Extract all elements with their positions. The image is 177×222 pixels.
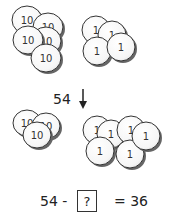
top-tens-group: 10 10 10 10 10 — [12, 6, 65, 74]
transition-label: 54 — [53, 91, 71, 107]
unknown-placeholder: ? — [84, 194, 91, 209]
equation-right: = 36 — [114, 193, 148, 209]
svg-text:10: 10 — [40, 53, 53, 64]
down-arrow-icon — [79, 89, 87, 109]
coin-diagram: 10 10 10 10 10 1 1 1 1 10 10 10 1 1 1 1 … — [0, 0, 177, 222]
equation-left: 54 - — [40, 193, 67, 209]
svg-text:1: 1 — [94, 46, 100, 57]
answer-box[interactable]: ? — [77, 190, 97, 212]
svg-text:1: 1 — [97, 146, 103, 157]
svg-text:1: 1 — [118, 42, 124, 53]
svg-text:1: 1 — [108, 129, 114, 140]
svg-text:1: 1 — [127, 149, 133, 160]
svg-text:10: 10 — [31, 130, 44, 141]
svg-text:10: 10 — [22, 35, 35, 46]
svg-text:10: 10 — [21, 15, 34, 26]
bottom-ones-group: 1 1 1 1 1 1 — [83, 116, 162, 170]
svg-text:1: 1 — [143, 131, 149, 142]
bottom-tens-group: 10 10 10 — [13, 110, 62, 150]
top-ones-group: 1 1 1 1 — [82, 16, 137, 67]
